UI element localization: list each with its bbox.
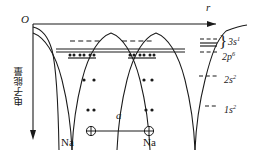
well-curve-left-partial <box>33 27 59 150</box>
diagram-canvas <box>0 0 260 154</box>
x-axis-arrowhead <box>207 21 216 27</box>
legend-sup-3s: 1 <box>237 35 240 42</box>
legend-label-2p: 2p6 <box>222 51 235 62</box>
legend-term-1s: 1s <box>224 104 233 115</box>
legend-term-2s: 2s <box>224 74 233 85</box>
y-axis-label: 电子能量 <box>14 66 28 106</box>
legend-label-3s: 3s1 <box>228 36 240 47</box>
legend-sup-2p: 6 <box>232 50 235 57</box>
atom-label-left: Na <box>61 137 74 148</box>
origin-label: O <box>21 14 29 25</box>
level-2s-electrons <box>82 78 153 81</box>
nucleus-right <box>144 126 153 135</box>
legend-brace: } <box>219 33 227 50</box>
legend-term-3s: 3s <box>228 36 237 47</box>
nucleus-left <box>86 126 95 135</box>
level-2p-electrons <box>69 54 156 57</box>
well-curve-right-tail <box>226 25 247 31</box>
lattice-spacing-label: a <box>116 110 122 121</box>
y-axis-arrowhead <box>30 130 36 140</box>
legend-term-2p: 2p <box>222 51 232 62</box>
legend-sup-1s: 2 <box>233 103 236 110</box>
energy-band-diagram: O r 电子能量 a Na Na } 3s1 2p6 2s2 1s2 <box>0 0 260 154</box>
legend-label-2s: 2s2 <box>224 74 236 85</box>
x-axis-label: r <box>206 2 210 13</box>
atom-label-right: Na <box>143 137 156 148</box>
legend-label-1s: 1s2 <box>224 104 236 115</box>
legend-sup-2s: 2 <box>233 73 236 80</box>
level-3s-band <box>56 49 185 52</box>
